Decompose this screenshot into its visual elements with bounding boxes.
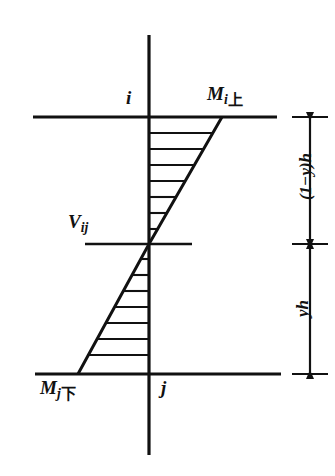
label-shear-subscript: ij xyxy=(81,220,89,235)
label-moment-top-annotation: 上 xyxy=(228,91,243,109)
label-dimension-lower-text: yh xyxy=(293,300,312,317)
moment-diagram-svg xyxy=(0,0,335,476)
label-moment-top-symbol: M xyxy=(207,83,224,104)
label-dimension-lower: yh xyxy=(294,279,311,339)
figure-root: i j Mi上 Mj下 Vij (1−y)h yh xyxy=(0,0,335,476)
label-dimension-upper-text: (1−y)h xyxy=(296,153,315,200)
label-node-i: i xyxy=(126,88,131,107)
label-node-i-text: i xyxy=(126,87,131,108)
label-dimension-upper: (1−y)h xyxy=(297,137,314,217)
label-node-j: j xyxy=(161,378,166,397)
label-moment-top: Mi上 xyxy=(207,84,243,108)
label-shear: Vij xyxy=(68,212,88,235)
label-node-j-text: j xyxy=(161,377,166,398)
label-moment-bottom: Mj下 xyxy=(40,378,76,402)
label-moment-bottom-annotation: 下 xyxy=(61,385,76,403)
label-shear-symbol: V xyxy=(68,211,81,232)
label-moment-bottom-symbol: M xyxy=(40,377,57,398)
